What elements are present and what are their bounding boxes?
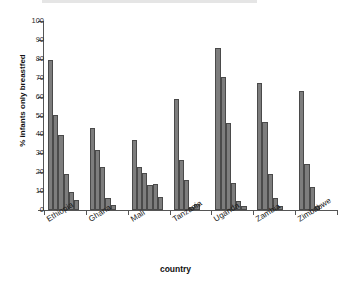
y-axis-tick-label: 70 — [10, 74, 44, 82]
x-axis-tick — [337, 211, 338, 215]
y-axis-tick-label: 40 — [10, 130, 44, 138]
y-axis-tick-label: 60 — [10, 93, 44, 101]
bar — [74, 200, 79, 210]
y-axis-tick-label: 80 — [10, 55, 44, 63]
x-axis-title: country — [0, 264, 351, 274]
y-axis-tick-label: 0 — [10, 206, 44, 214]
y-axis-tick-label: 100 — [10, 17, 44, 25]
y-axis-tick-label: 30 — [10, 149, 44, 157]
y-axis-tick-label: 10 — [10, 187, 44, 195]
x-axis-tick — [44, 211, 45, 215]
x-axis-tick — [128, 211, 129, 215]
x-axis-tick — [86, 211, 87, 215]
plot-area — [44, 21, 337, 210]
bar-chart: % infants only breastfed country 0102030… — [0, 0, 351, 284]
y-axis-tick-label: 90 — [10, 36, 44, 44]
y-axis-tick-label: 20 — [10, 168, 44, 176]
y-axis-tick-label: 50 — [10, 112, 44, 120]
x-axis-tick — [170, 211, 171, 215]
bar — [158, 197, 163, 210]
scan-artifact — [42, 0, 257, 3]
bar — [241, 206, 246, 210]
